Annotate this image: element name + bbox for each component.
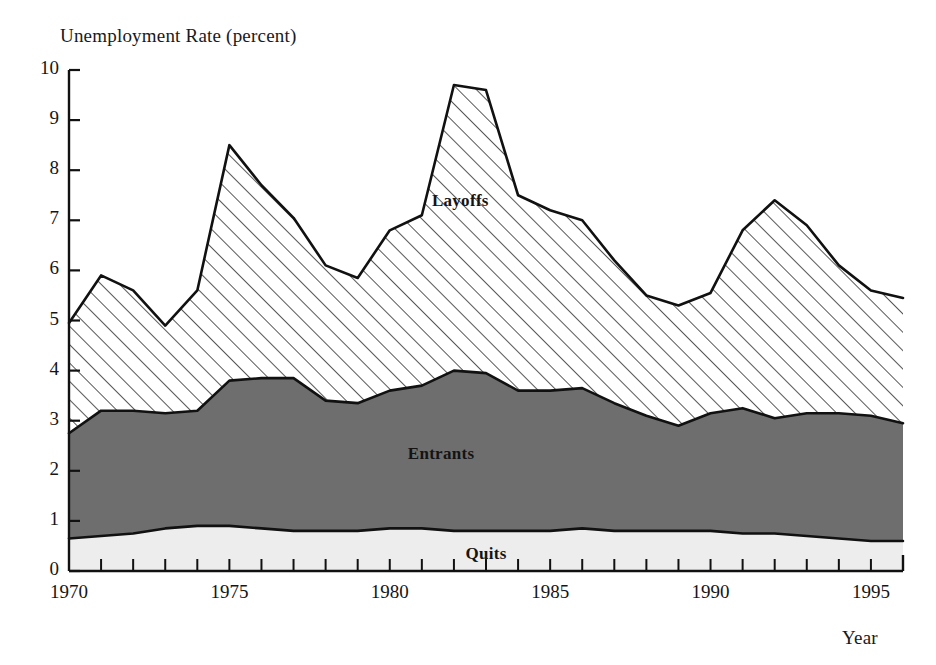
x-axis-tick-label: 1990: [671, 581, 751, 603]
y-axis-tick-label: 7: [19, 207, 59, 229]
series-label-quits: Quits: [465, 544, 506, 564]
y-axis-tick-label: 5: [19, 308, 59, 330]
y-axis-tick-label: 1: [19, 508, 59, 530]
x-axis-tick-label: 1975: [189, 581, 269, 603]
series-label-layoffs: Layoffs: [432, 191, 489, 211]
y-axis-tick-label: 3: [19, 408, 59, 430]
y-axis-tick-label: 4: [19, 358, 59, 380]
area-series-layer: [69, 85, 903, 571]
y-axis-tick-label: 6: [19, 257, 59, 279]
y-axis-tick-label: 8: [19, 157, 59, 179]
x-axis-tick-label: 1980: [350, 581, 430, 603]
y-axis-tick-label: 9: [19, 107, 59, 129]
series-label-entrants: Entrants: [408, 444, 475, 464]
x-axis-tick-label: 1995: [831, 581, 911, 603]
y-axis-tick-label: 2: [19, 458, 59, 480]
unemployment-stacked-area-chart: Unemployment Rate (percent) Year 0123456…: [0, 0, 936, 665]
x-axis-tick-label: 1985: [510, 581, 590, 603]
plot-area: [0, 0, 936, 665]
y-axis-tick-label: 0: [19, 558, 59, 580]
x-axis-tick-label: 1970: [29, 581, 109, 603]
y-axis-tick-label: 10: [19, 57, 59, 79]
